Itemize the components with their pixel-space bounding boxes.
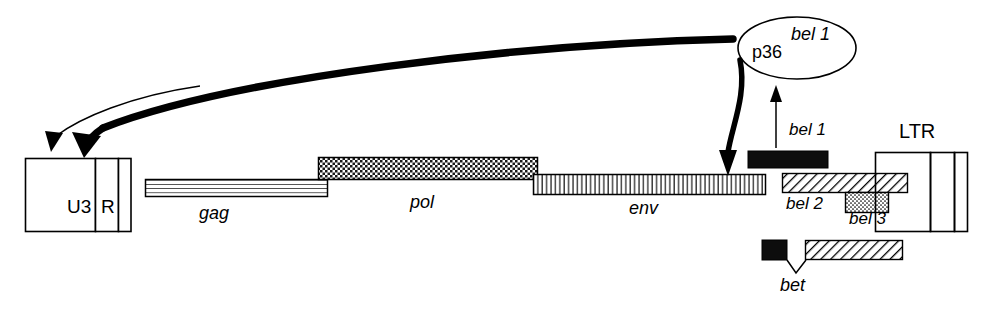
gene-label-env: env	[629, 198, 658, 219]
protein-label-p36: p36	[752, 42, 782, 63]
gene-box-gag	[146, 180, 328, 197]
ltr-left-u3-box	[26, 159, 96, 232]
orf-label-bel-3: bel 3	[849, 209, 886, 229]
gene-box-env	[534, 175, 766, 195]
ltr-right-r-box	[931, 153, 955, 232]
arrow-expression-down	[719, 60, 742, 176]
bet-label: bet	[780, 275, 805, 296]
gene-box-pol	[319, 158, 538, 180]
arrow-translation-up	[770, 85, 782, 148]
gene-label-gag: gag	[199, 203, 229, 224]
orf-box-bel-2	[783, 174, 908, 193]
genome-diagram	[0, 0, 988, 310]
ltr-left-r-box	[96, 159, 119, 232]
ltr-right-u5-box	[955, 153, 968, 232]
bet-exon1-box	[762, 240, 787, 260]
ltr-left-u3-label: U3	[67, 196, 91, 218]
ltr-left-r-label: R	[101, 196, 115, 218]
orf-label-bel-1: bel 1	[789, 120, 826, 140]
gene-label-pol: pol	[410, 192, 434, 213]
arrow-transactivation-thick	[72, 39, 733, 158]
ltr-left-u5-box	[119, 159, 132, 232]
ltr-left-group	[26, 159, 132, 232]
ltr-right-label: LTR	[899, 120, 935, 143]
protein-label-bel-1: bel 1	[791, 24, 830, 45]
orf-box-bel-1	[748, 151, 828, 168]
bet-exon2-box	[806, 241, 903, 260]
bet-construct-group	[762, 240, 903, 273]
orf-label-bel-2: bel 2	[786, 194, 823, 214]
bet-splice-connector	[787, 260, 806, 273]
